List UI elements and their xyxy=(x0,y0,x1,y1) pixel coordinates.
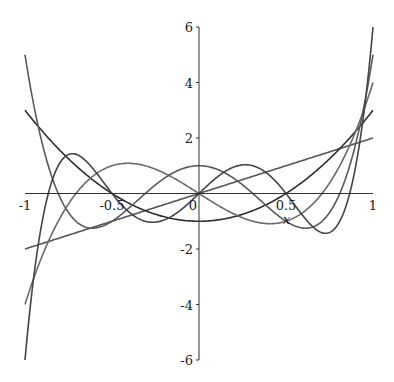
y-tick-label: -2 xyxy=(180,242,193,257)
x-tick-labels: -1-0.500.51 xyxy=(19,198,377,213)
x-tick-label: 1 xyxy=(369,198,377,213)
y-tick-label: -6 xyxy=(180,353,193,368)
chart: -1-0.500.51 642-2-4-6 x xyxy=(0,0,394,382)
y-tick-label: -4 xyxy=(180,298,193,313)
x-tick-label: 0.5 xyxy=(276,198,297,213)
x-axis-label: x xyxy=(283,212,291,227)
x-tick-label: 0 xyxy=(189,198,197,213)
y-tick-label: 2 xyxy=(185,131,193,146)
x-tick-label: -1 xyxy=(19,198,32,213)
y-tick-label: 4 xyxy=(185,76,193,91)
y-tick-label: 6 xyxy=(185,20,193,35)
x-tick-label: -0.5 xyxy=(99,198,124,213)
